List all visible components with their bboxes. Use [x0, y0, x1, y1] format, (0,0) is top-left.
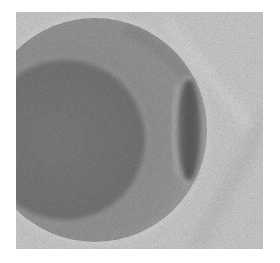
- micrograph-svg: [16, 12, 263, 249]
- micrograph-image: [16, 12, 263, 249]
- lens-bulge: [177, 79, 201, 181]
- image-canvas: [0, 0, 280, 263]
